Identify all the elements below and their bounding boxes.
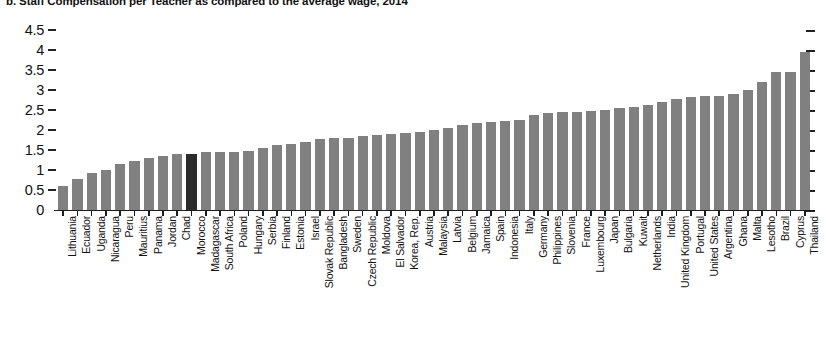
bar: [629, 107, 639, 210]
x-axis-tick-label: El Salvador: [395, 216, 406, 268]
x-axis-tick-mark: [490, 210, 492, 216]
x-axis-tick-label: Ecuador: [81, 216, 92, 254]
x-axis-tick-mark: [747, 210, 749, 216]
y-axis-tick: 1: [36, 162, 56, 178]
x-axis-tick-label: Ghana: [738, 216, 749, 247]
x-axis-tick-label: Moldova: [381, 216, 392, 254]
x-axis-tick-mark: [433, 210, 435, 216]
y-axis-tick-mark: [48, 49, 56, 51]
bar: [671, 99, 681, 210]
bar: [728, 94, 738, 210]
bar: [258, 148, 268, 210]
x-axis-tick-label: Hungary: [253, 216, 264, 254]
y-axis-tick: 3: [36, 82, 56, 98]
x-axis-tick-mark: [562, 210, 564, 216]
x-axis-tick-mark: [633, 210, 635, 216]
y-axis-tick-label: 3: [36, 83, 44, 98]
x-axis-tick-mark: [305, 210, 307, 216]
bar: [429, 130, 439, 210]
x-axis-tick-mark: [219, 210, 221, 216]
x-axis-tick-mark: [519, 210, 521, 216]
x-axis-tick-mark: [604, 210, 606, 216]
bar: [300, 142, 310, 210]
x-axis-tick-label: Portugal: [695, 216, 706, 254]
x-axis-tick-mark: [376, 210, 378, 216]
bar: [400, 133, 410, 210]
y-axis-tick-mark: [48, 189, 56, 191]
x-axis-tick-mark: [105, 210, 107, 216]
y-axis-tick-mark: [48, 149, 56, 151]
bar: [158, 156, 168, 210]
bar: [572, 112, 582, 210]
y-axis-tick-mark: [48, 109, 56, 111]
bar: [457, 125, 467, 210]
x-axis-tick-mark: [505, 210, 507, 216]
x-axis-tick-label: Slovak Republic: [324, 216, 335, 288]
x-axis-tick-label: Lesotho: [766, 216, 777, 252]
x-axis-tick-mark: [62, 210, 64, 216]
x-axis-tick-mark: [234, 210, 236, 216]
x-axis-tick-label: Philippines: [552, 216, 563, 265]
y-axis-tick-label: 0.5: [25, 183, 44, 198]
x-axis-tick-mark: [319, 210, 321, 216]
x-axis-tick-label: Nicaragua: [110, 216, 121, 262]
bar: [700, 96, 710, 210]
y-axis-tick-label: 1.5: [25, 143, 44, 158]
bar: [586, 111, 596, 210]
y-axis-tick-mark: [48, 169, 56, 171]
x-axis-tick-mark: [733, 210, 735, 216]
x-axis-tick-label: Korea, Rep.: [409, 216, 420, 270]
x-axis-tick-label: Luxembourg: [595, 216, 606, 272]
x-axis-tick-mark: [590, 210, 592, 216]
x-axis-tick-label: Uganda: [96, 216, 107, 252]
bar: [386, 134, 396, 210]
x-axis-tick-label: Argentina: [723, 216, 734, 259]
x-axis-tick-mark: [718, 210, 720, 216]
x-axis-tick-mark: [191, 210, 193, 216]
x-axis-tick-mark: [262, 210, 264, 216]
x-axis-tick-label: Bangladesh: [338, 216, 349, 269]
bar: [757, 82, 767, 210]
x-axis-labels: LithuaniaEcuadorUgandaNicaraguaPeruMauri…: [56, 216, 826, 336]
x-axis-tick-label: Lithuania: [67, 216, 78, 257]
y-axis-tick-label: 4: [36, 43, 44, 58]
x-axis-tick-mark: [704, 210, 706, 216]
bar: [186, 154, 196, 210]
x-axis-tick-mark: [676, 210, 678, 216]
bar: [343, 138, 353, 210]
x-axis-tick-label: South Africa: [224, 216, 235, 270]
x-axis-tick-label: Kuwait: [638, 216, 649, 246]
x-axis-tick-mark: [661, 210, 663, 216]
x-axis-tick-label: Brazil: [780, 216, 791, 241]
x-axis-tick-mark: [619, 210, 621, 216]
y-axis-tick: 2: [36, 122, 56, 138]
x-axis-tick-label: Spain: [495, 216, 506, 242]
x-axis-tick-label: United Kingdom: [680, 216, 691, 288]
y-axis-tick-label: 1: [36, 163, 44, 178]
x-axis-tick-label: Sweden: [352, 216, 363, 253]
x-axis-tick-mark: [462, 210, 464, 216]
x-axis-tick-label: Latvia: [452, 216, 463, 243]
bar: [643, 105, 653, 210]
x-axis-tick-label: Czech Republic: [367, 216, 378, 287]
x-axis-tick-label: Madagascar: [210, 216, 221, 272]
bar: [714, 96, 724, 210]
x-axis-tick-label: Thailand: [809, 216, 820, 255]
x-axis-tick-mark: [390, 210, 392, 216]
bar: [415, 132, 425, 210]
x-axis-tick-mark: [148, 210, 150, 216]
x-axis-tick-mark: [77, 210, 79, 216]
bar: [72, 179, 82, 210]
x-axis-tick-label: Finland: [281, 216, 292, 249]
bar: [686, 97, 696, 210]
x-axis-tick-label: France: [581, 216, 592, 247]
x-axis-tick-label: Slovenia: [566, 216, 577, 255]
bar: [472, 123, 482, 210]
x-axis-tick-mark: [91, 210, 93, 216]
x-axis-tick-label: Austria: [424, 216, 435, 247]
bar: [272, 145, 282, 210]
x-axis-tick-mark: [362, 210, 364, 216]
y-axis-tick: 4.5: [25, 22, 56, 38]
chart-title: b. Staff Compensation per Teacher as com…: [6, 0, 408, 7]
y-axis-tick: 1.5: [25, 142, 56, 158]
